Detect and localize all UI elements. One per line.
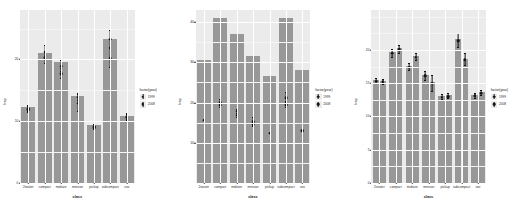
- bar: [412, 56, 419, 182]
- error-bar-cap: [474, 93, 476, 94]
- data-point: [424, 75, 427, 78]
- data-point: [457, 39, 460, 42]
- gridline-major-x: [28, 10, 29, 183]
- data-point: [480, 92, 483, 95]
- legend-label-2008-p1: 2008: [148, 102, 155, 106]
- y-tick-label: 15: [366, 81, 370, 85]
- x-tick-label: midsize: [56, 185, 67, 189]
- plot-area-1: [20, 10, 135, 183]
- x-tick-label: 2seater: [374, 185, 385, 189]
- error-bar-cap: [398, 53, 400, 54]
- x-tick-label: suv: [300, 185, 305, 189]
- error-bar-cap: [480, 95, 482, 96]
- plot-area-3: [371, 10, 486, 183]
- error-bar-cap: [431, 91, 433, 92]
- x-tick-label: pickup: [89, 185, 98, 189]
- error-bar-cap: [382, 79, 384, 80]
- x-tick-label: 2seater: [23, 185, 34, 189]
- y-axis-title-label-1: hwy: [3, 98, 7, 105]
- x-axis-title-1: class: [20, 195, 135, 199]
- y-tick-label: 0: [368, 181, 370, 185]
- legend-title-3: factor(year): [491, 88, 527, 92]
- error-bar-cap: [375, 78, 377, 79]
- bar: [462, 59, 469, 183]
- bar: [438, 96, 445, 183]
- y-axis-title-label-2: hwy: [178, 98, 182, 105]
- data-point: [440, 96, 443, 99]
- error-bar-cap: [474, 98, 476, 99]
- error-bar-cap: [408, 70, 410, 71]
- bar: [471, 95, 478, 183]
- x-tick-label: subcompact: [277, 185, 294, 189]
- y-tick-label: 20: [190, 101, 194, 105]
- gridline-major-x: [127, 10, 128, 183]
- plot-area-2: [196, 10, 311, 183]
- bar: [389, 52, 396, 182]
- gridline-major-x: [253, 10, 254, 183]
- data-point: [464, 59, 467, 62]
- error-bar-cap: [447, 93, 449, 94]
- x-tick-label: midsize: [407, 185, 418, 189]
- plot-panel-1: hwy 01020 2seatercompactmidsizeminivanpi…: [0, 0, 176, 203]
- error-bar-cap: [382, 84, 384, 85]
- gridline-major-x: [110, 10, 111, 183]
- y-axis-ticks-1: 01020: [9, 0, 20, 203]
- x-tick-label: minivan: [72, 185, 83, 189]
- error-bar-cap: [424, 80, 426, 81]
- legend-2: factor(year) 1999 2008: [313, 0, 351, 203]
- data-point: [414, 56, 417, 59]
- legend-item-1999-p1[interactable]: 1999: [140, 94, 176, 101]
- legend-label-1999-p2: 1999: [323, 95, 330, 99]
- data-point: [473, 95, 476, 98]
- legend-point-key-icon: [140, 101, 147, 108]
- x-tick-label: midsize: [231, 185, 242, 189]
- legend-point-key-icon: [491, 101, 498, 108]
- x-axis-title-2: class: [196, 195, 311, 199]
- x-tick-label: 2seater: [198, 185, 209, 189]
- gridline-major-x: [45, 10, 46, 183]
- error-bar-cap: [441, 94, 443, 95]
- legend-label-2008-p3: 2008: [499, 102, 506, 106]
- bar: [373, 80, 380, 182]
- y-axis-title-3: hwy: [351, 0, 360, 203]
- legend-item-2008-p1[interactable]: 2008: [140, 101, 176, 108]
- bar: [455, 39, 462, 182]
- x-tick-label: suv: [124, 185, 129, 189]
- legend-item-2008-p3[interactable]: 2008: [491, 101, 527, 108]
- x-axis-ticks-3: 2seatercompactmidsizeminivanpickupsubcom…: [371, 183, 486, 195]
- error-bar-cap: [480, 90, 482, 91]
- bar: [379, 81, 386, 183]
- y-axis-title-1: hwy: [0, 0, 9, 203]
- error-bar-cap: [431, 75, 433, 76]
- legend-point-key-icon: [140, 94, 147, 101]
- y-tick-label: 0: [17, 181, 19, 185]
- legend-point-key-icon: [315, 101, 322, 108]
- y-tick-label: 10: [15, 119, 19, 123]
- error-bar-cap: [415, 60, 417, 61]
- error-bar-cap: [398, 45, 400, 46]
- gridline-major-x: [302, 10, 303, 183]
- x-tick-label: compact: [390, 185, 402, 189]
- y-tick-label: 20: [366, 48, 370, 52]
- gridline-major-x: [396, 10, 397, 183]
- legend-item-1999-p3[interactable]: 1999: [491, 94, 527, 101]
- y-tick-label: 5: [368, 148, 370, 152]
- error-bar-cap: [424, 71, 426, 72]
- legend-1: factor(year) 1999 2008: [138, 0, 176, 203]
- gridline-major-x: [462, 10, 463, 183]
- x-tick-label: suv: [475, 185, 480, 189]
- gridline-major-x: [445, 10, 446, 183]
- y-tick-label: 40: [190, 20, 194, 24]
- legend-item-2008-p2[interactable]: 2008: [315, 101, 351, 108]
- legend-item-1999-p2[interactable]: 1999: [315, 94, 351, 101]
- y-tick-label: 10: [366, 114, 370, 118]
- panel-column-3: 2seatercompactmidsizeminivanpickupsubcom…: [371, 0, 489, 203]
- gridline-major-x: [204, 10, 205, 183]
- error-bar-cap: [408, 63, 410, 64]
- y-tick-label: 30: [190, 60, 194, 64]
- gridline-major-x: [237, 10, 238, 183]
- figure-sheet: hwy 01020 2seatercompactmidsizeminivanpi…: [0, 0, 527, 203]
- plot-panel-2: hwy 10203040 2seatercompactmidsizeminiva…: [176, 0, 352, 203]
- legend-title-2: factor(year): [315, 88, 351, 92]
- gridline-major-x: [270, 10, 271, 183]
